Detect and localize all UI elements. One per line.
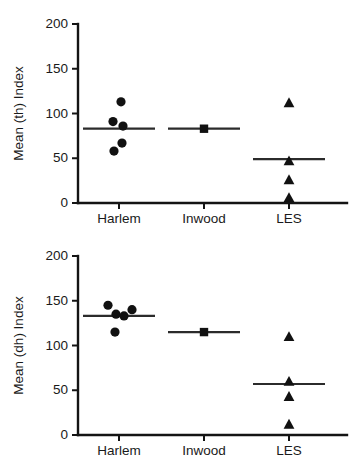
data-point-circle (111, 310, 120, 319)
x-category-label-les: LES (276, 211, 302, 226)
y-axis-title: Mean (th) Index (11, 66, 26, 161)
data-point-circle (110, 327, 119, 336)
data-point-circle (103, 301, 112, 310)
y-tick-label: 200 (45, 248, 68, 263)
y-tick-label: 100 (45, 106, 68, 121)
y-tick-label: 100 (45, 338, 68, 353)
y-tick-label: 150 (45, 61, 68, 76)
data-point-triangle (284, 192, 295, 202)
scatter-plot-dh: 050100150200HarlemInwoodLESMean (dh) Ind… (0, 232, 353, 463)
data-point-circle (119, 311, 128, 320)
data-point-triangle (284, 419, 295, 429)
data-point-square (200, 125, 208, 133)
y-tick-label: 150 (45, 293, 68, 308)
y-tick-label: 0 (60, 427, 68, 442)
data-point-circle (108, 117, 117, 126)
x-category-label-harlem: Harlem (97, 443, 141, 458)
x-category-label-harlem: Harlem (97, 211, 141, 226)
y-tick-label: 200 (45, 16, 68, 31)
data-point-circle (127, 305, 136, 314)
data-point-circle (116, 97, 125, 106)
data-point-triangle (284, 174, 295, 184)
y-tick-label: 0 (60, 195, 68, 210)
chart-panel-th: 050100150200HarlemInwoodLESMean (th) Ind… (0, 0, 353, 231)
figure-container: 050100150200HarlemInwoodLESMean (th) Ind… (0, 0, 353, 463)
chart-panel-dh: 050100150200HarlemInwoodLESMean (dh) Ind… (0, 232, 353, 463)
x-category-label-inwood: Inwood (182, 211, 226, 226)
data-point-circle (117, 138, 126, 147)
data-point-circle (109, 146, 118, 155)
y-axis-title: Mean (dh) Index (11, 296, 26, 395)
data-point-triangle (284, 97, 295, 107)
data-point-triangle (284, 391, 295, 401)
scatter-plot-th: 050100150200HarlemInwoodLESMean (th) Ind… (0, 0, 353, 231)
data-point-triangle (284, 376, 295, 386)
data-point-circle (118, 121, 127, 130)
x-category-label-inwood: Inwood (182, 443, 226, 458)
x-category-label-les: LES (276, 443, 302, 458)
data-point-square (200, 328, 208, 336)
data-point-triangle (284, 156, 295, 166)
data-point-triangle (284, 331, 295, 341)
y-tick-label: 50 (53, 150, 68, 165)
y-tick-label: 50 (53, 382, 68, 397)
